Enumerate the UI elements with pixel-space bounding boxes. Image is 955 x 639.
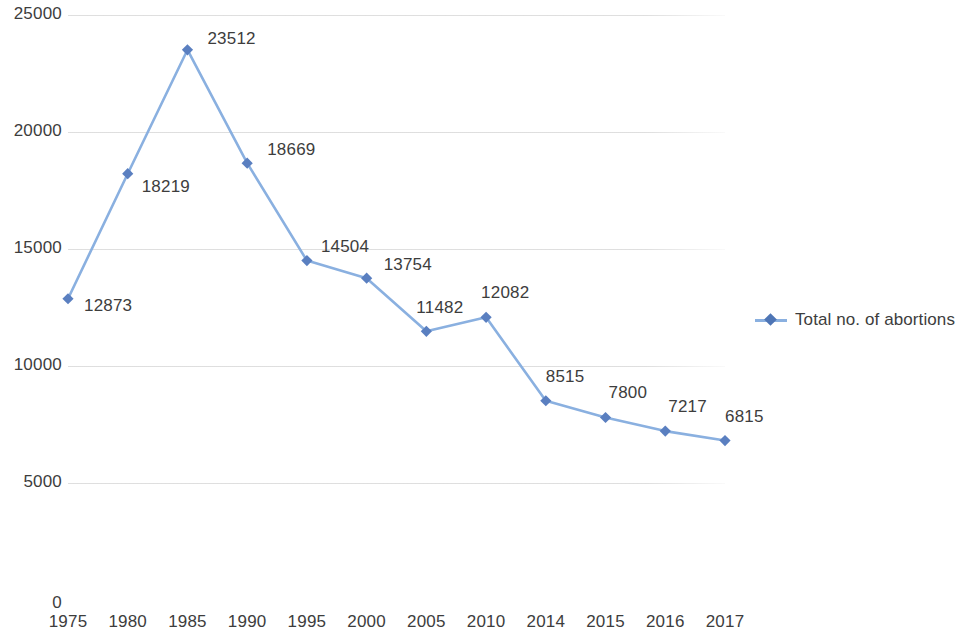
data-point-label: 12082 — [481, 283, 529, 303]
data-point-label: 13754 — [384, 255, 432, 275]
chart-legend[interactable]: Total no. of abortions — [755, 310, 955, 330]
x-axis-tick-label: 2017 — [690, 612, 760, 632]
legend-label: Total no. of abortions — [795, 310, 955, 330]
data-point-label: 7800 — [609, 383, 648, 403]
data-point-label: 8515 — [546, 367, 585, 387]
data-point-label: 23512 — [207, 29, 255, 49]
data-point-label: 14504 — [321, 237, 369, 257]
data-point-label: 11482 — [416, 298, 463, 318]
data-point-label: 12873 — [84, 296, 132, 316]
x-axis: 1975198019851990199520002005201020142015… — [0, 612, 951, 639]
legend-line-diamond-icon — [755, 313, 787, 327]
data-point-label: 7217 — [668, 397, 707, 417]
data-point-label: 18219 — [142, 177, 190, 197]
data-point-label: 18669 — [267, 140, 315, 160]
data-point-label: 6815 — [725, 407, 764, 427]
